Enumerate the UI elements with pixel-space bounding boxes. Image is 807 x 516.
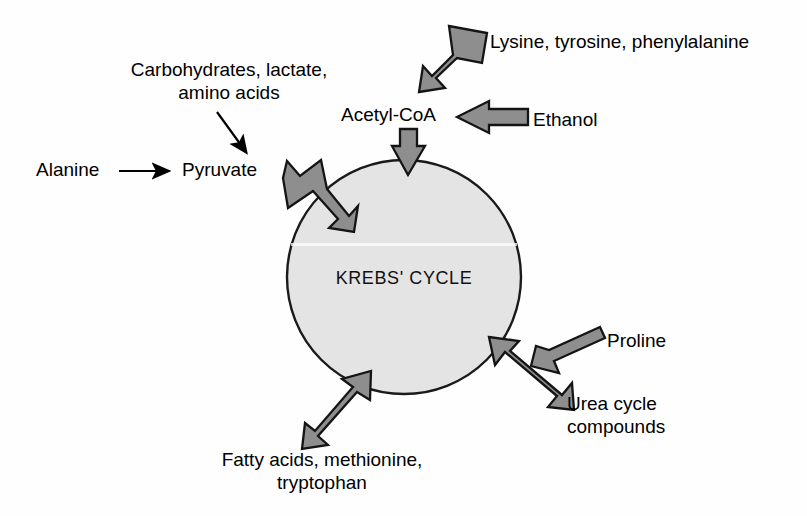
arrow-fatty-acids-to-cycle — [302, 371, 371, 449]
label-acetyl-coa: Acetyl-CoA — [341, 103, 436, 126]
label-proline: Proline — [607, 329, 666, 352]
label-pyruvate: Pyruvate — [182, 158, 257, 181]
scan-artifact — [291, 243, 517, 246]
label-fatty-acids-methionine-tryptophan: Fatty acids, methionine, tryptophan — [197, 448, 447, 494]
arrow-proline-to-cycle — [531, 327, 605, 373]
label-lysine-tyrosine-phenylalanine: Lysine, tyrosine, phenylalanine — [490, 30, 749, 53]
label-urea-cycle-compounds: Urea cycle compounds — [567, 392, 665, 438]
label-carbohydrates-lactate-amino-acids: Carbohydrates, lactate, amino acids — [110, 58, 348, 104]
arrow-ethanol-to-acetyl-coa — [457, 101, 528, 133]
arrow-carbohydrates-to-pyruvate — [217, 112, 246, 152]
label-alanine: Alanine — [36, 158, 99, 181]
diagram-canvas: Alanine Carbohydrates, lactate, amino ac… — [0, 0, 807, 516]
krebs-cycle-label: KREBS' CYCLE — [304, 268, 504, 289]
arrow-lysine-to-acetyl-coa — [419, 26, 487, 92]
label-ethanol: Ethanol — [533, 108, 597, 131]
